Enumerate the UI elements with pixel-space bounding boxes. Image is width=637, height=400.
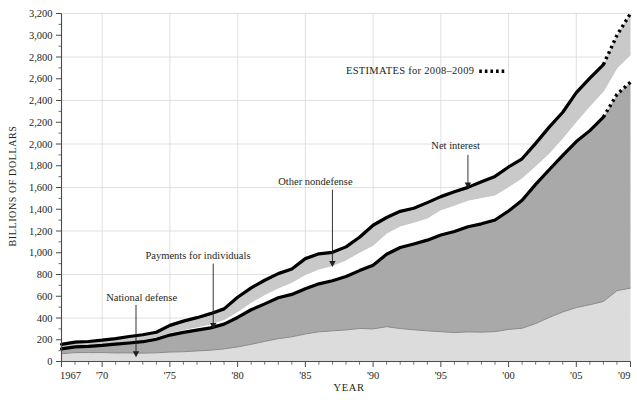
x-tick-label: '75 (164, 370, 176, 381)
y-axis-tick-labels: 02004006008001,0001,2001,4001,6001,8002,… (29, 8, 53, 367)
estimates-note: ESTIMATES for 2008–2009 (346, 65, 507, 76)
chart-figure: 02004006008001,0001,2001,4001,6001,8002,… (0, 0, 637, 400)
y-tick-label: 2,000 (29, 139, 53, 150)
y-tick-label: 1,600 (29, 182, 53, 193)
y-tick-label: 3,200 (29, 8, 53, 19)
y-tick-label: 1,200 (29, 226, 53, 237)
x-tick-label: '80 (231, 370, 243, 381)
y-tick-label: 1,400 (29, 204, 53, 215)
area-band-payments-for-individuals (62, 82, 631, 354)
annotation-label: Net interest (431, 140, 480, 151)
y-tick-label: 400 (37, 313, 53, 324)
annotation-net-interest: Net interest (431, 140, 480, 188)
y-tick-label: 2,400 (29, 95, 53, 106)
x-tick-label: '90 (367, 370, 379, 381)
estimates-note-label: ESTIMATES for 2008–2009 (346, 65, 474, 76)
y-tick-label: 2,200 (29, 117, 53, 128)
x-tick-label: '05 (570, 370, 582, 381)
annotation-label: National defense (106, 292, 177, 303)
y-tick-label: 1,000 (29, 247, 53, 258)
annotation-label: Other nondefense (278, 176, 353, 187)
x-tick-label: '00 (502, 370, 514, 381)
x-tick-label: '09 (618, 370, 630, 381)
y-axis-title: BILLIONS OF DOLLARS (7, 126, 18, 247)
y-tick-label: 1,800 (29, 160, 53, 171)
federal-outlays-area-chart: 02004006008001,0001,2001,4001,6001,8002,… (0, 0, 637, 400)
y-tick-label: 600 (37, 291, 53, 302)
x-axis-tick-labels: 1967'70'75'80'85'90'95'00'05'09 (60, 370, 631, 381)
x-axis-title: YEAR (334, 382, 365, 393)
y-tick-label: 2,800 (29, 52, 53, 63)
x-tick-label: '95 (435, 370, 447, 381)
y-tick-label: 200 (37, 334, 53, 345)
x-tick-label: '85 (299, 370, 311, 381)
y-tick-label: 0 (47, 356, 52, 367)
annotation-label: Payments for individuals (145, 250, 250, 261)
x-tick-label: '70 (96, 370, 108, 381)
y-tick-label: 3,000 (29, 30, 53, 41)
x-tick-label: 1967 (60, 370, 81, 381)
y-tick-label: 2,600 (29, 73, 53, 84)
y-tick-label: 800 (37, 269, 53, 280)
